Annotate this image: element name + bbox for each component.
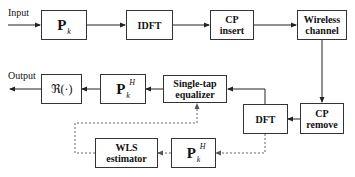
cp-remove-line1: CP [315,108,328,119]
wls-estimator-block: WLS estimator [95,138,158,168]
real-part-block: ℜ(·) [41,74,82,104]
output-label: Output [8,70,36,81]
equalizer-line1: Single-tap [173,78,216,89]
wls-estimator-line1: WLS [115,142,137,153]
cp-insert-line2: insert [220,25,244,36]
pk-hermitian-bottom-block: PkH [171,138,216,168]
cp-insert-line1: CP [225,14,238,25]
cp-remove-line2: remove [306,119,337,130]
wireless-channel-line2: channel [305,25,338,36]
pk-block: Pk [41,10,87,40]
wireless-channel-line1: Wireless [304,14,340,25]
dft-block: DFT [243,104,288,134]
cp-remove-block: CP remove [300,103,344,134]
idft-label: IDFT [138,20,162,31]
input-label: Input [8,7,29,18]
wls-estimator-line2: estimator [106,153,147,164]
wireless-channel-block: Wireless channel [297,10,347,40]
idft-block: IDFT [126,10,173,40]
cp-insert-block: CP insert [210,10,254,40]
ofdm-block-diagram: Input Output Pk IDFT CP insert Wireless … [0,0,355,177]
pk-hermitian-top-block: PkH [100,74,146,104]
pkh-bottom-symbol: PkH [187,145,201,162]
pk-symbol: Pk [57,17,71,34]
pkh-top-symbol: PkH [116,81,130,98]
dft-label: DFT [256,114,276,125]
equalizer-line2: equalizer [175,89,214,100]
real-part-label: ℜ(·) [51,82,73,97]
single-tap-equalizer-block: Single-tap equalizer [163,75,227,103]
